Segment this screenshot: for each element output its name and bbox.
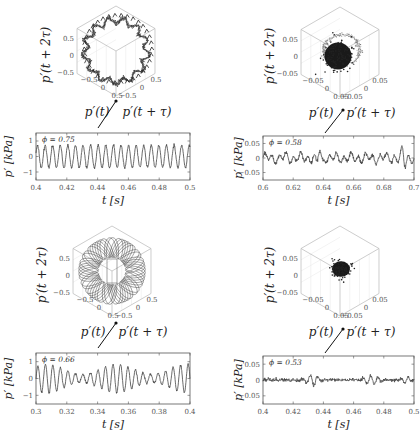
x-tick-label: 0 [325,85,329,93]
z-axis-label: p′(t + 2τ) [35,246,49,303]
y-tick-label: 0 [364,304,368,312]
y-axis-label: p′(t + τ) [119,325,168,339]
panel-top-right: 0.050−0.05−0.0500.05−0.0500.05p′(t + 2τ)… [232,7,420,207]
x-tick-label: 0.48 [376,408,392,416]
y-tick-label: 0 [29,375,33,383]
x-axis-label: p′(t) [309,325,334,339]
time-series-plot: 0.60.620.640.660.680.70.050−0.05ϕ = 0.58… [232,136,420,207]
y-tick-label: 0 [140,84,144,92]
time-series-plot: 0.30.320.340.360.380.410−1ϕ = 0.66p′ [kP… [2,353,196,430]
y-axis-label: p′ [kPa] [2,357,15,399]
y-tick-label: −1 [23,169,33,177]
x-tick-label: 0.46 [121,184,137,192]
x-tick-label: 0.66 [346,184,362,192]
x-tick-label: 0.4 [184,408,196,416]
equivalence-ratio-label: ϕ = 0.53 [269,358,302,367]
y-tick-label: 0.5 [150,76,161,84]
y-tick-label: 0 [29,153,33,161]
y-tick-label: 0 [136,304,140,312]
x-tick-label: −0.05 [302,296,323,304]
z-tick-label: 0 [294,53,298,61]
y-axis-label: p′(t + τ) [123,105,172,119]
z-axis-label: p′(t + 2τ) [263,246,277,303]
z-axis-label: p′(t + 2τ) [263,27,277,84]
z-tick-label: −0.05 [277,70,298,78]
panel-top-left: 0.50−0.5−0.500.5−0.500.5p′(t + 2τ)p′(t)p… [2,6,196,207]
y-tick-label: 0 [256,377,260,385]
x-axis-label: p′(t) [309,106,334,120]
phase-space-plot: 0.50−0.5−0.500.5−0.500.5p′(t + 2τ)p′(t)p… [39,6,172,119]
x-tick-label: 0.4 [257,408,269,416]
x-tick-label: 0.38 [151,408,167,416]
panel-bottom-right: 0.050−0.05−0.0500.05−0.0500.05p′(t + 2τ)… [232,226,420,430]
y-axis-label: p′(t + τ) [347,106,396,120]
z-tick-label: −0.5 [53,289,70,297]
x-tick-label: 0.34 [90,408,106,416]
x-tick-label: 0.4 [30,184,42,192]
arrow-head-icon [341,327,344,330]
equivalence-ratio-label: ϕ = 0.58 [269,138,302,147]
y-tick-label: 1 [29,137,33,145]
y-tick-label: 0 [364,85,368,93]
y-tick-label: −0.05 [341,93,362,101]
z-tick-label: 0 [70,52,74,60]
x-axis-label: t [s] [327,194,350,207]
y-tick-label: 0.5 [146,296,157,304]
arrow-head-icon [114,321,117,324]
z-tick-label: 0 [294,272,298,280]
x-tick-label: 0.42 [285,408,301,416]
x-tick-label: 0.68 [376,184,392,192]
arrow-head-icon [341,108,344,111]
y-tick-label: −0.5 [116,312,133,320]
x-tick-label: 0.42 [59,184,75,192]
x-tick-label: 0.62 [285,184,301,192]
y-tick-label: 1 [29,358,33,366]
y-tick-label: 0.05 [244,140,260,148]
y-tick-label: 0 [256,155,260,163]
y-tick-label: 0.05 [372,296,388,304]
figure: 0.50−0.5−0.500.5−0.500.5p′(t + 2τ)p′(t)p… [0,0,420,430]
y-axis-label: p′ [kPa] [232,358,245,400]
x-tick-label: 0.64 [316,184,332,192]
x-tick-label: 0 [325,304,329,312]
x-tick-label: −0.5 [77,296,94,304]
time-series-plot: 0.40.420.440.460.480.510−1ϕ = 0.75p′ [kP… [2,133,196,207]
x-tick-label: 0.44 [316,408,332,416]
x-axis-label: p′(t) [81,325,106,339]
y-axis-label: p′ [kPa] [232,136,245,178]
y-tick-label: −0.5 [120,92,137,100]
z-tick-label: 0.5 [63,35,74,43]
time-series-plot: 0.40.420.440.460.480.50.050−0.05ϕ = 0.53… [232,356,420,430]
z-tick-label: 0.05 [282,36,298,44]
z-tick-label: 0.05 [282,255,298,263]
x-tick-label: 0 [97,304,101,312]
y-tick-label: −1 [23,392,33,400]
arrow-head-icon [114,99,117,102]
x-axis-label: t [s] [102,194,125,207]
x-tick-label: 0.7 [408,184,419,192]
panel-bottom-left: 0.50−0.5−0.500.5−0.500.5p′(t + 2τ)p′(t)p… [2,226,196,430]
x-tick-label: 0.32 [59,408,75,416]
x-tick-label: 0.36 [121,408,137,416]
x-tick-label: 0.5 [184,184,195,192]
phase-space-plot: 0.50−0.5−0.500.5−0.500.5p′(t + 2τ)p′(t)p… [35,226,168,339]
equivalence-ratio-label: ϕ = 0.75 [42,135,75,144]
x-tick-label: 0.5 [408,408,419,416]
x-axis-label: t [s] [327,418,350,430]
z-axis-label: p′(t + 2τ) [39,26,53,83]
y-tick-label: 0.05 [372,77,388,85]
phase-space-plot: 0.050−0.05−0.0500.05−0.0500.05p′(t + 2τ)… [263,7,396,120]
y-tick-label: 0.05 [244,361,260,369]
y-axis-label: p′(t + τ) [347,325,396,339]
z-tick-label: −0.5 [57,69,74,77]
x-tick-label: 0.6 [257,184,269,192]
y-tick-label: −0.05 [341,312,362,320]
attractor-trajectory [329,258,355,283]
y-axis-label: p′ [kPa] [2,135,15,177]
x-tick-label: 0.48 [151,184,167,192]
x-tick-label: −0.05 [302,77,323,85]
z-tick-label: −0.05 [277,289,298,297]
z-tick-label: 0 [66,272,70,280]
phase-space-plot: 0.050−0.05−0.0500.05−0.0500.05p′(t + 2τ)… [263,226,396,339]
z-tick-label: 0.5 [59,255,70,263]
